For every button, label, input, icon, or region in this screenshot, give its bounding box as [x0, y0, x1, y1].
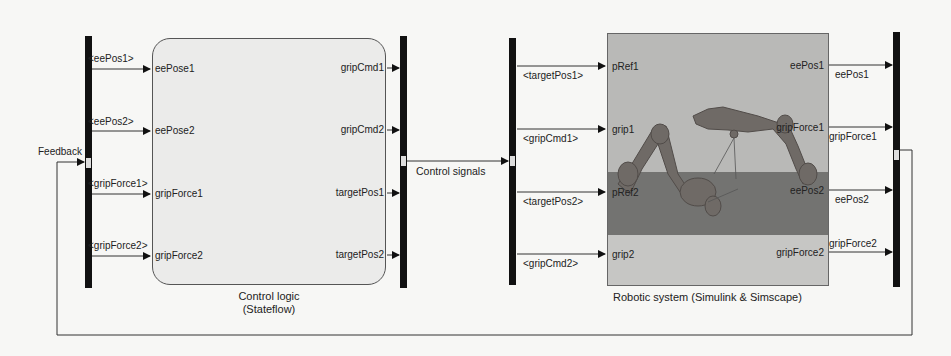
port-eepose1: eePose1	[155, 63, 194, 75]
port-eepose2: eePose2	[155, 125, 194, 137]
caption-line-1: Control logic	[152, 290, 386, 303]
signal-label: gripForce1	[829, 131, 877, 143]
signal-label: eePos2	[835, 194, 869, 206]
signal-label: eePos1	[835, 69, 869, 81]
port-grip2: grip2	[612, 249, 634, 261]
bus-port	[510, 156, 515, 166]
signal-label: <targetPos1>	[523, 70, 583, 82]
bus-port	[401, 156, 406, 166]
control-signals-label: Control signals	[416, 165, 485, 177]
port-pref2: pRef2	[612, 187, 639, 199]
port-gripcmd2: gripCmd2	[341, 124, 384, 136]
bus-port	[86, 158, 91, 168]
caption-line-2: (Stateflow)	[152, 303, 386, 316]
bus-port	[894, 150, 899, 160]
robotic-system-block[interactable]: pRef1 grip1 pRef2 grip2 eePos1 gripForce…	[607, 33, 829, 286]
signal-label: <eePos1>	[88, 53, 134, 65]
control-bus-selector[interactable]	[509, 38, 516, 285]
signal-label: <eePos2>	[88, 116, 134, 128]
signal-label: <gripCmd1>	[523, 133, 578, 145]
signal-label: <gripCmd2>	[523, 258, 578, 270]
port-eepos1: eePos1	[790, 60, 824, 72]
signal-label: <gripForce1>	[88, 178, 147, 190]
signal-label: gripForce2	[829, 238, 877, 250]
port-gripcmd1: gripCmd1	[341, 62, 384, 74]
signal-label: <targetPos2>	[523, 196, 583, 208]
robotic-system-caption: Robotic system (Simulink & Simscape)	[607, 291, 835, 304]
port-gripforce1: gripForce1	[155, 188, 203, 200]
control-logic-block[interactable]	[152, 38, 386, 285]
port-gripforce2: gripForce2	[776, 247, 824, 259]
port-eepos2: eePos2	[790, 185, 824, 197]
port-gripforce2: gripForce2	[155, 250, 203, 262]
feedback-bus-creator[interactable]	[893, 32, 900, 287]
port-gripforce1: gripForce1	[776, 122, 824, 134]
control-bus-creator[interactable]	[400, 36, 407, 288]
port-pref1: pRef1	[612, 61, 639, 73]
port-targetpos1: targetPos1	[336, 187, 384, 199]
port-targetpos2: targetPos2	[336, 249, 384, 261]
signal-label: <gripForce2>	[88, 240, 147, 252]
feedback-label: Feedback	[38, 146, 82, 158]
control-logic-caption: Control logic (Stateflow)	[152, 290, 386, 316]
port-grip1: grip1	[612, 124, 634, 136]
